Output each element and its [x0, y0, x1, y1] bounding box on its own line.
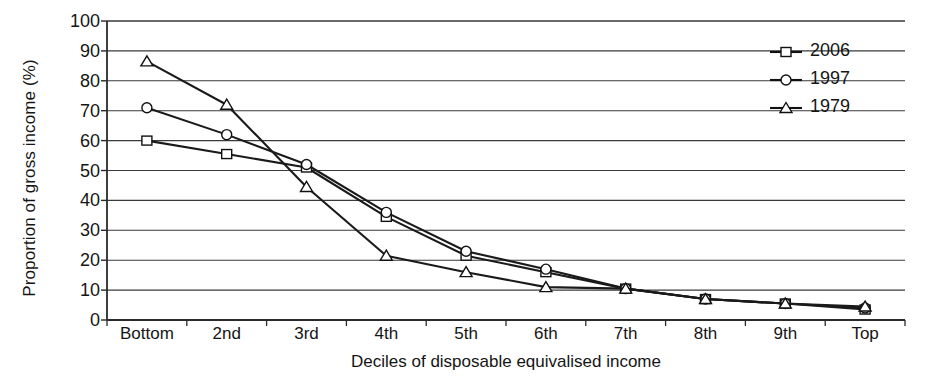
series-1997-point-1-circle-marker	[222, 130, 232, 140]
series-1997-point-4-circle-marker	[461, 246, 471, 256]
legend-2006-square-marker	[781, 48, 791, 57]
series-1979	[141, 56, 871, 311]
series-line-1979	[147, 61, 865, 306]
x-tick-label-top: Top	[851, 324, 878, 344]
x-tick-label-7th: 7th	[614, 324, 638, 344]
gridlines	[107, 21, 905, 320]
series-1979-point-0-triangle-marker	[141, 56, 153, 66]
series-2006-point-1-square-marker	[222, 150, 232, 159]
x-tick-label-9th: 9th	[773, 324, 797, 344]
legend-item-2006[interactable]	[770, 48, 802, 57]
x-tick-label-3rd: 3rd	[294, 324, 319, 344]
series-2006	[142, 136, 870, 314]
legend-1997-circle-marker	[781, 75, 791, 85]
series-line-1997	[147, 108, 865, 308]
x-axis-title: Deciles of disposable equivalised income	[107, 352, 905, 372]
series-2006-point-0-square-marker	[142, 136, 152, 145]
legend-label-2006[interactable]: 2006	[810, 40, 850, 61]
series-1997	[142, 103, 870, 313]
series-1997-point-2-circle-marker	[302, 160, 312, 170]
x-tick-label-bottom: Bottom	[120, 324, 174, 344]
data-series-layer	[141, 56, 871, 314]
x-tick-label-6th: 6th	[534, 324, 558, 344]
series-1979-point-1-triangle-marker	[221, 99, 233, 109]
x-tick-label-4th: 4th	[374, 324, 398, 344]
series-1997-point-0-circle-marker	[142, 103, 152, 113]
legend-label-1997[interactable]: 1997	[810, 68, 850, 89]
income-deciles-line-chart: Proportion of gross income (%) 010203040…	[0, 0, 930, 390]
series-1997-point-5-circle-marker	[541, 264, 551, 274]
legend-item-1997[interactable]	[770, 75, 802, 85]
x-tick-label-5th: 5th	[454, 324, 478, 344]
legend	[770, 48, 802, 113]
series-1997-point-3-circle-marker	[381, 207, 391, 217]
x-tick-label-2nd: 2nd	[213, 324, 241, 344]
legend-label-1979[interactable]: 1979	[810, 96, 850, 117]
series-line-2006	[147, 141, 865, 310]
x-tick-label-8th: 8th	[694, 324, 718, 344]
